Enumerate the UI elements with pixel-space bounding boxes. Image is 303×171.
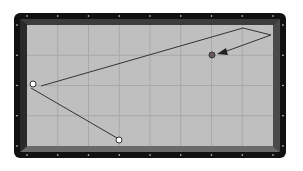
cushion-bottom [20, 146, 280, 152]
cushion-left [20, 19, 27, 152]
object-ball-red [209, 52, 215, 58]
cue-ball [30, 81, 36, 87]
object-ball-white [116, 137, 122, 143]
cushion-right [273, 19, 280, 152]
billiard-table-diagram [0, 0, 303, 171]
cushion-top [20, 19, 280, 25]
